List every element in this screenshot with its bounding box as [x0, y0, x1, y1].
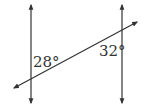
angle-label-28: 28°: [33, 53, 60, 71]
geometry-diagram: 28° 32°: [0, 0, 144, 112]
angle-label-32: 32°: [99, 42, 126, 60]
